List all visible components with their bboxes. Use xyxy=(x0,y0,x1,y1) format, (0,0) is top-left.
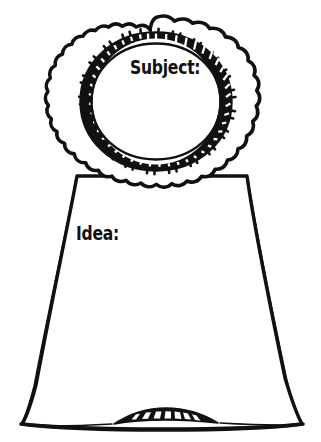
subject-label: Subject: xyxy=(130,58,200,77)
idea-label: Idea: xyxy=(76,224,119,243)
worksheet-page: Subject: Idea: xyxy=(0,0,321,442)
